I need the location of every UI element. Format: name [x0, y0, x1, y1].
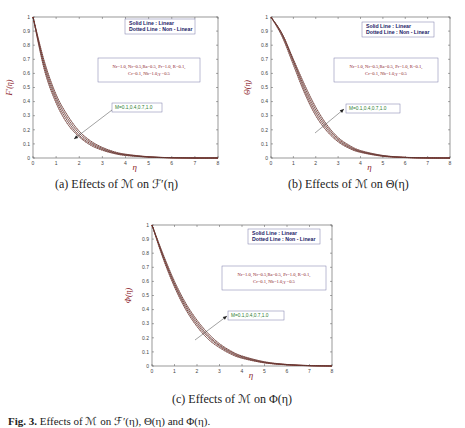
- parameters-box: [222, 266, 326, 290]
- figure-caption: Fig. 3. Effects of ℳ on ℱ′(η), Θ(η) and …: [8, 415, 210, 428]
- legend-dotted-line: Dotted Line : Non - Linear: [252, 236, 315, 242]
- y-tick-label: 0.8: [23, 42, 30, 48]
- x-tick-label: 6: [170, 160, 173, 166]
- m-values-label: M=0.1,0.4,0.7,1.0: [231, 313, 269, 318]
- y-axis-label: Φ(η): [124, 287, 133, 303]
- y-tick-label: 0.7: [23, 56, 30, 62]
- x-tick-label: 4: [124, 160, 127, 166]
- x-tick-label: 3: [101, 160, 104, 166]
- y-tick-label: 0.7: [261, 56, 268, 62]
- y-tick-label: 0.6: [261, 70, 268, 76]
- x-tick-label: 2: [314, 160, 317, 166]
- y-tick-label: 0.6: [142, 278, 149, 284]
- y-tick-label: 0.9: [142, 236, 149, 242]
- x-tick-label: 3: [337, 160, 340, 166]
- x-tick-label: 5: [381, 160, 384, 166]
- y-tick-label: 0.1: [261, 141, 268, 147]
- subcaption-a: (a) Effects of ℳ on ℱ′(η): [55, 177, 178, 192]
- figure-caption-text: Effects of ℳ on ℱ′(η), Θ(η) and Φ(η).: [40, 415, 210, 427]
- legend-dotted-line: Dotted Line : Non - Linear: [129, 26, 192, 32]
- y-tick-label: 0.1: [142, 349, 149, 355]
- y-tick-label: 0: [265, 155, 268, 161]
- y-tick-label: 0: [27, 155, 30, 161]
- x-tick-label: 6: [404, 160, 407, 166]
- y-tick-label: 0.3: [23, 112, 30, 118]
- x-tick-label: 3: [218, 368, 221, 374]
- x-tick-label: 0: [270, 160, 273, 166]
- x-tick-label: 1: [173, 368, 176, 374]
- x-tick-label: 1: [292, 160, 295, 166]
- y-tick-label: 0.2: [142, 335, 149, 341]
- x-tick-label: 7: [193, 160, 196, 166]
- x-tick-label: 8: [331, 368, 334, 374]
- y-tick-label: 0.5: [261, 84, 268, 90]
- x-tick-label: 0: [32, 160, 35, 166]
- y-tick-label: 0: [146, 363, 149, 369]
- y-tick-label: 1: [27, 14, 30, 20]
- chart-panel-b: 01234567800.10.20.30.40.50.60.70.80.91Θ(…: [234, 0, 465, 175]
- y-tick-label: 0.3: [261, 112, 268, 118]
- m-values-label: M=0.1,0.4,0.7,1.0: [349, 106, 387, 111]
- y-axis-label: F′(η): [5, 79, 14, 96]
- x-axis-label: η: [133, 162, 138, 172]
- x-tick-label: 7: [308, 368, 311, 374]
- y-tick-label: 0.2: [261, 127, 268, 133]
- legend-dotted-line: Dotted Line : Non - Linear: [366, 29, 429, 35]
- x-tick-label: 4: [359, 160, 362, 166]
- subcaption-b: (b) Effects of ℳ on Θ(η): [288, 177, 409, 192]
- x-tick-label: 8: [449, 160, 452, 166]
- x-tick-label: 2: [196, 368, 199, 374]
- plot-area: [152, 225, 332, 366]
- y-tick-label: 0.4: [23, 98, 30, 104]
- y-tick-label: 0.6: [23, 70, 30, 76]
- y-tick-label: 0.4: [261, 98, 268, 104]
- y-tick-label: 0.2: [23, 127, 30, 133]
- x-tick-label: 0: [151, 368, 154, 374]
- y-tick-label: 0.1: [23, 141, 30, 147]
- y-tick-label: 0.5: [142, 292, 149, 298]
- x-tick-label: 5: [263, 368, 266, 374]
- subcaption-c: (c) Effects of ℳ on Φ(η): [172, 392, 292, 407]
- x-tick-label: 5: [147, 160, 150, 166]
- plot-area: [33, 17, 218, 158]
- x-tick-label: 2: [78, 160, 81, 166]
- y-tick-label: 1: [265, 14, 268, 20]
- y-tick-label: 1: [146, 222, 149, 228]
- y-tick-label: 0.7: [142, 264, 149, 270]
- m-values-label: M=0.1,0.4,0.7,1.0: [115, 105, 153, 110]
- parameters-box: [98, 58, 200, 82]
- y-tick-label: 0.9: [261, 28, 268, 34]
- y-tick-label: 0.8: [261, 42, 268, 48]
- parameters-box: [334, 58, 438, 82]
- y-axis-label: Θ(η): [243, 80, 252, 95]
- chart-panel-c: 01234567800.10.20.30.40.50.60.70.80.91Φ(…: [118, 208, 350, 383]
- x-tick-label: 7: [426, 160, 429, 166]
- y-tick-label: 0.8: [142, 250, 149, 256]
- x-axis-label: η: [367, 162, 372, 172]
- x-tick-label: 8: [217, 160, 220, 166]
- y-tick-label: 0.3: [142, 320, 149, 326]
- plot-area: [271, 17, 450, 158]
- x-axis-label: η: [249, 370, 254, 380]
- x-tick-label: 1: [55, 160, 58, 166]
- x-tick-label: 4: [241, 368, 244, 374]
- figure-caption-prefix: Fig. 3.: [8, 415, 37, 427]
- chart-panel-a: 01234567800.10.20.30.40.50.60.70.80.91F′…: [0, 0, 232, 175]
- x-tick-label: 6: [286, 368, 289, 374]
- y-tick-label: 0.5: [23, 84, 30, 90]
- y-tick-label: 0.9: [23, 28, 30, 34]
- y-tick-label: 0.4: [142, 306, 149, 312]
